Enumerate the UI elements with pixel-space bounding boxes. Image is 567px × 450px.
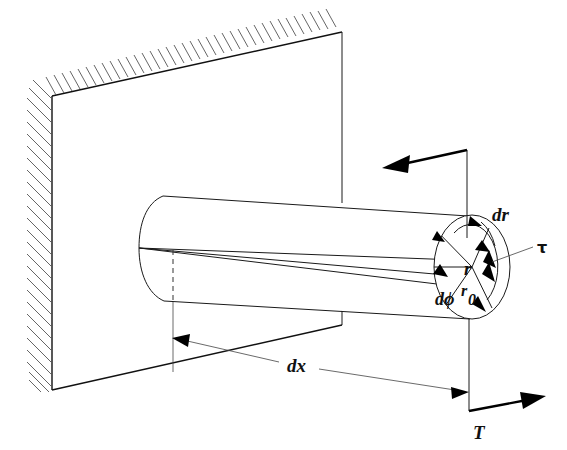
- label-dphi: dϕ: [435, 289, 454, 309]
- dx-leader-right: [319, 369, 455, 390]
- torque-T-arrowhead: [520, 392, 546, 409]
- label-r: r: [464, 258, 472, 279]
- label-T: T: [473, 422, 486, 443]
- label-r0-subscript: 0: [468, 291, 476, 308]
- applied-torque-T: T: [469, 319, 546, 443]
- torque-arrowhead: [382, 155, 410, 173]
- figure-container: T dx τ dr r dϕ r 0: [0, 0, 567, 450]
- torsion-shaft-diagram: T dx τ dr r dϕ r 0: [0, 0, 567, 450]
- label-dx: dx: [287, 355, 307, 376]
- label-dr: dr: [492, 204, 510, 225]
- torque-T-shaft: [469, 400, 527, 411]
- label-r0-base: r: [461, 282, 468, 299]
- hatch-left: [27, 80, 51, 392]
- dx-arrowhead-right: [451, 387, 469, 399]
- label-tau: τ: [537, 238, 547, 257]
- torque-arrow-shaft: [403, 150, 467, 164]
